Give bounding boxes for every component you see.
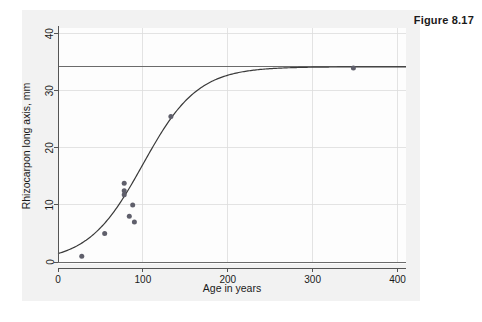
data-point: [351, 65, 356, 70]
data-points: [79, 65, 356, 258]
x-tick-label: 100: [135, 274, 152, 285]
y-tick-label: 0: [45, 259, 56, 265]
axis-lines: [58, 26, 406, 268]
figure-container: Figure 8.17 0100200300400 010203040 Age …: [0, 0, 482, 322]
data-point: [168, 114, 173, 119]
y-tick-label: 30: [45, 85, 56, 97]
fitted-curve: [58, 67, 406, 254]
y-tick-label: 40: [45, 28, 56, 40]
scatter-chart: 0100200300400 010203040 Age in years Rhi…: [0, 0, 482, 322]
data-point: [132, 220, 137, 225]
grid-lines: [58, 28, 406, 262]
x-tick-label: 300: [304, 274, 321, 285]
data-point: [122, 181, 127, 186]
x-axis-title: Age in years: [203, 282, 261, 294]
x-tick-label: 0: [55, 274, 61, 285]
y-axis-title: Rhizocarpon long axis, mm: [20, 82, 32, 209]
tick-marks: [54, 34, 398, 272]
data-point: [102, 231, 107, 236]
data-point: [79, 254, 84, 259]
data-point: [122, 192, 127, 197]
y-tick-label: 10: [45, 199, 56, 211]
reference-lines: [58, 67, 406, 262]
data-point: [130, 202, 135, 207]
x-tick-label: 400: [389, 274, 406, 285]
y-tick-label: 20: [45, 142, 56, 154]
y-tick-labels: 010203040: [45, 28, 56, 265]
data-point: [127, 214, 132, 219]
